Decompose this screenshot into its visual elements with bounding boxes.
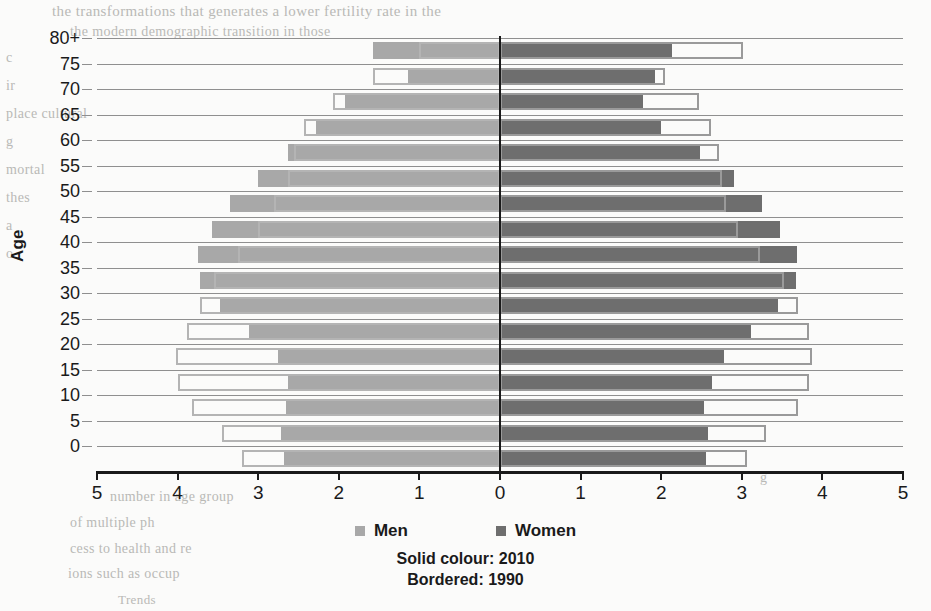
y-tick-mark [82, 166, 92, 167]
x-tick-label: 0 [495, 482, 506, 504]
x-tick-label: 1 [414, 482, 425, 504]
bar-women-1990 [500, 272, 784, 289]
y-tick-mark [82, 268, 92, 269]
legend-label: Women [515, 521, 576, 541]
bar-women-1990 [500, 425, 766, 442]
y-tick-mark [82, 38, 92, 39]
bar-men-1990 [294, 144, 500, 161]
legend-item-women: Women [496, 521, 576, 541]
bar-men-1990 [258, 221, 500, 238]
background-text: Trends [118, 592, 156, 608]
x-tick-mark [338, 471, 340, 480]
bar-women-1990 [500, 144, 719, 161]
zero-axis-line [499, 36, 501, 474]
bar-women-1990 [500, 170, 722, 187]
y-tick-mark [82, 421, 92, 422]
bar-men-1990 [222, 425, 500, 442]
x-tick-mark [660, 471, 662, 480]
bar-men-1990 [178, 374, 500, 391]
y-tick-label: 20 [60, 335, 80, 353]
y-tick-mark [82, 319, 92, 320]
bar-women-1990 [500, 93, 699, 110]
bar-men-1990 [373, 68, 500, 85]
bar-men-1990 [238, 246, 500, 263]
bar-men-1990 [176, 348, 500, 365]
x-tick-mark [177, 471, 179, 480]
plot-area [97, 38, 903, 472]
y-tick-mark [82, 370, 92, 371]
y-tick-label: 80+ [49, 29, 80, 47]
y-tick-mark [82, 242, 92, 243]
x-tick-label: 5 [898, 482, 909, 504]
bar-men-1990 [200, 297, 500, 314]
chart-legend: MenWomen [0, 521, 931, 541]
y-tick-label: 10 [60, 386, 80, 404]
bar-men-1990 [242, 450, 500, 467]
y-tick-label: 45 [60, 208, 80, 226]
bar-women-1990 [500, 221, 738, 238]
x-tick-label: 3 [253, 482, 264, 504]
bar-men-1990 [288, 170, 500, 187]
bar-women-1990 [500, 374, 809, 391]
x-tick-mark [741, 471, 743, 480]
x-tick-label: 2 [334, 482, 345, 504]
y-tick-label: 65 [60, 106, 80, 124]
x-tick-label: 2 [656, 482, 667, 504]
y-tick-mark [82, 446, 92, 447]
x-tick-mark [580, 471, 582, 480]
legend-label: Men [374, 521, 408, 541]
x-tick-label: 1 [575, 482, 586, 504]
legend-item-men: Men [355, 521, 408, 541]
y-tick-label: 5 [70, 412, 80, 430]
x-tick-label: 3 [737, 482, 748, 504]
x-tick-mark [902, 471, 904, 480]
background-text: the transformations that generates a low… [52, 3, 441, 20]
bar-men-1990 [192, 399, 500, 416]
y-tick-label: 55 [60, 157, 80, 175]
y-tick-label: 25 [60, 310, 80, 328]
bar-women-1990 [500, 119, 711, 136]
y-tick-label: 70 [60, 80, 80, 98]
bar-men-1990 [214, 272, 500, 289]
y-tick-label: 60 [60, 131, 80, 149]
y-tick-label: 35 [60, 259, 80, 277]
bar-men-1990 [333, 93, 500, 110]
y-tick-mark [82, 115, 92, 116]
bar-women-1990 [500, 246, 760, 263]
bar-men-1990 [304, 119, 500, 136]
y-tick-mark [82, 293, 92, 294]
y-tick-mark [82, 64, 92, 65]
bar-women-1990 [500, 450, 747, 467]
bar-women-1990 [500, 297, 798, 314]
y-tick-label: 15 [60, 361, 80, 379]
y-tick-label: 50 [60, 182, 80, 200]
x-tick-label: 5 [92, 482, 103, 504]
y-tick-label: 30 [60, 284, 80, 302]
legend-swatch-icon [496, 526, 506, 536]
x-tick-label: 4 [172, 482, 183, 504]
y-tick-label: 40 [60, 233, 80, 251]
bar-men-1990 [419, 42, 500, 59]
caption-bordered: Bordered: 1990 [0, 569, 931, 590]
y-tick-mark [82, 395, 92, 396]
bar-women-1990 [500, 348, 812, 365]
y-axis-ticks: 80+757065605550454035302520151050 [0, 38, 92, 472]
bar-women-1990 [500, 42, 743, 59]
caption-solid: Solid colour: 2010 [0, 548, 931, 569]
bar-women-1990 [500, 195, 726, 212]
y-tick-mark [82, 191, 92, 192]
legend-swatch-icon [355, 526, 365, 536]
bar-men-1990 [187, 323, 500, 340]
x-tick-mark [96, 471, 98, 480]
bar-men-1990 [274, 195, 500, 212]
x-tick-mark [418, 471, 420, 480]
x-tick-mark [821, 471, 823, 480]
chart-captions: Solid colour: 2010 Bordered: 1990 [0, 548, 931, 591]
x-tick-mark [257, 471, 259, 480]
population-pyramid-figure: the transformations that generates a low… [0, 0, 931, 611]
y-tick-mark [82, 217, 92, 218]
y-tick-label: 0 [70, 437, 80, 455]
y-tick-mark [82, 89, 92, 90]
bar-women-1990 [500, 399, 798, 416]
y-tick-mark [82, 344, 92, 345]
